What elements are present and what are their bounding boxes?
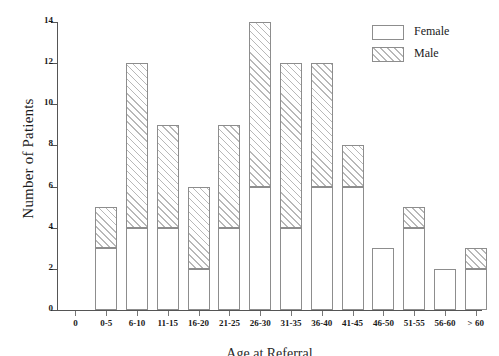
bar-segment-female[interactable] xyxy=(126,228,148,310)
x-tick-label: 41-45 xyxy=(342,318,363,328)
x-tick-label: 0 xyxy=(73,318,78,328)
x-tick-label: 0-5 xyxy=(100,318,112,328)
x-tick-label: 46-50 xyxy=(373,318,394,328)
plot-area: 02468101214 00-56-1011-1516-2021-2526-30… xyxy=(57,22,482,310)
x-tick-label: 56-60 xyxy=(435,318,456,328)
bar-segment-female[interactable] xyxy=(188,269,210,310)
bar-segment-female[interactable] xyxy=(311,187,333,310)
bar-segment-male[interactable] xyxy=(311,63,333,186)
bar-group[interactable] xyxy=(126,63,148,310)
bar-segment-male[interactable] xyxy=(218,125,240,228)
white-box-icon xyxy=(372,25,404,40)
x-tick-label: 16-20 xyxy=(188,318,209,328)
x-tick-label: 6-10 xyxy=(129,318,146,328)
legend-label-male: Male xyxy=(414,46,439,61)
bar-group[interactable] xyxy=(465,248,487,310)
hatched-box-icon xyxy=(372,47,404,62)
x-tick-label: 51-55 xyxy=(404,318,425,328)
bar-segment-male[interactable] xyxy=(403,207,425,228)
bar-segment-female[interactable] xyxy=(342,187,364,310)
x-tick-label: > 60 xyxy=(468,318,484,328)
y-tick-label: 0 xyxy=(49,303,54,313)
x-tick-mark xyxy=(137,311,138,316)
bar-segment-male[interactable] xyxy=(342,145,364,186)
x-tick-mark xyxy=(353,311,354,316)
bar-segment-female[interactable] xyxy=(249,187,271,310)
x-tick-mark xyxy=(476,311,477,316)
x-tick-label: 26-30 xyxy=(250,318,271,328)
x-tick-mark xyxy=(291,311,292,316)
bar-group[interactable] xyxy=(188,187,210,310)
x-tick-label: 36-40 xyxy=(311,318,332,328)
y-tick-label: 8 xyxy=(49,138,54,148)
x-tick-mark xyxy=(260,311,261,316)
y-tick-label: 2 xyxy=(49,262,54,272)
y-axis-title: Number of Patients xyxy=(20,59,37,259)
bar-group[interactable] xyxy=(342,145,364,310)
legend-label-female: Female xyxy=(414,24,449,39)
x-tick-mark xyxy=(199,311,200,316)
x-axis-line xyxy=(57,310,482,311)
bar-segment-female[interactable] xyxy=(218,228,240,310)
x-tick-mark xyxy=(106,311,107,316)
bar-group[interactable] xyxy=(218,125,240,310)
bar-group[interactable] xyxy=(95,207,117,310)
bar-segment-female[interactable] xyxy=(280,228,302,310)
y-tick-label: 12 xyxy=(44,56,53,66)
bar-segment-male[interactable] xyxy=(126,63,148,228)
x-tick-mark xyxy=(322,311,323,316)
bar-segment-female[interactable] xyxy=(372,248,394,310)
x-axis-title: Age at Referral xyxy=(57,346,482,356)
bar-group[interactable] xyxy=(403,207,425,310)
bar-group[interactable] xyxy=(157,125,179,310)
bar-segment-female[interactable] xyxy=(465,269,487,310)
y-tick-label: 14 xyxy=(44,15,53,25)
bar-segment-male[interactable] xyxy=(280,63,302,228)
bar-segment-male[interactable] xyxy=(249,22,271,187)
bar-group[interactable] xyxy=(280,63,302,310)
y-tick-label: 4 xyxy=(49,221,54,231)
bar-segment-male[interactable] xyxy=(95,207,117,248)
bar-group[interactable] xyxy=(249,22,271,310)
x-tick-mark xyxy=(445,311,446,316)
bar-segment-male[interactable] xyxy=(465,248,487,269)
bar-segment-male[interactable] xyxy=(188,187,210,269)
x-tick-mark xyxy=(229,311,230,316)
bar-segment-female[interactable] xyxy=(157,228,179,310)
y-tick-label: 6 xyxy=(49,180,54,190)
y-tick-label: 10 xyxy=(44,97,53,107)
bar-group[interactable] xyxy=(434,269,456,310)
bar-group[interactable] xyxy=(311,63,333,310)
x-tick-label: 21-25 xyxy=(219,318,240,328)
bar-segment-male[interactable] xyxy=(157,125,179,228)
bar-segment-female[interactable] xyxy=(95,248,117,310)
x-tick-mark xyxy=(414,311,415,316)
x-tick-mark xyxy=(75,311,76,316)
x-tick-mark xyxy=(383,311,384,316)
bar-segment-female[interactable] xyxy=(403,228,425,310)
y-axis-line xyxy=(57,22,58,311)
bar-segment-female[interactable] xyxy=(434,269,456,310)
bar-group[interactable] xyxy=(372,248,394,310)
x-tick-label: 11-15 xyxy=(158,318,179,328)
x-tick-mark xyxy=(168,311,169,316)
stacked-bar-chart: Number of Patients 02468101214 00-56-101… xyxy=(0,0,499,356)
x-tick-label: 31-35 xyxy=(281,318,302,328)
